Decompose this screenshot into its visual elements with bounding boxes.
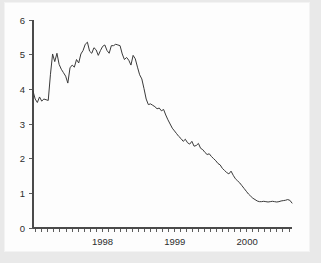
- chart-plot-area: 0123456 199819992000: [0, 0, 321, 263]
- y-tick-label: 4: [20, 84, 25, 95]
- x-tick-label: 1999: [164, 236, 185, 247]
- y-tick-label: 1: [20, 188, 25, 199]
- line-chart-svg: 0123456 199819992000: [0, 0, 321, 263]
- y-axis-ticks: [29, 20, 33, 228]
- y-tick-label: 6: [20, 15, 25, 26]
- figure-container: 0123456 199819992000: [0, 0, 321, 263]
- y-axis-tick-labels: 0123456: [20, 15, 25, 234]
- y-tick-label: 2: [20, 153, 25, 164]
- data-series-line: [33, 42, 292, 203]
- y-axis-group: 0123456: [20, 15, 33, 234]
- x-tick-label: 1998: [92, 236, 113, 247]
- x-axis-group: 199819992000: [33, 228, 292, 247]
- y-tick-label: 0: [20, 223, 25, 234]
- y-tick-label: 5: [20, 49, 25, 60]
- y-tick-label: 3: [20, 119, 25, 130]
- x-tick-label: 2000: [237, 236, 258, 247]
- x-axis-tick-labels: 199819992000: [92, 236, 258, 247]
